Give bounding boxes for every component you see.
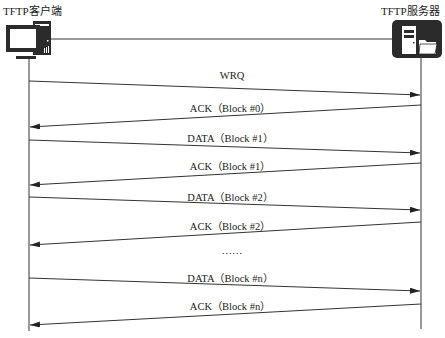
- message-label-wrq: WRQ: [220, 70, 245, 81]
- message-label-data-1: DATA（Block #1）: [187, 130, 272, 145]
- arrow-wrq: [29, 81, 420, 95]
- server-folder-icon: [392, 20, 442, 58]
- message-label-data-n: DATA（Block #n）: [187, 270, 272, 285]
- message-label-data-2: DATA（Block #2）: [187, 189, 272, 204]
- message-label-ack-1: ACK（Block #1）: [190, 158, 270, 173]
- message-label-ellipsis: ……: [222, 245, 243, 256]
- message-label-ack-n: ACK（Block #n）: [190, 298, 270, 313]
- message-label-ack-0: ACK（Block #0）: [190, 100, 270, 115]
- desktop-computer-icon: [6, 21, 51, 59]
- message-label-ack-2: ACK（Block #2）: [190, 218, 270, 233]
